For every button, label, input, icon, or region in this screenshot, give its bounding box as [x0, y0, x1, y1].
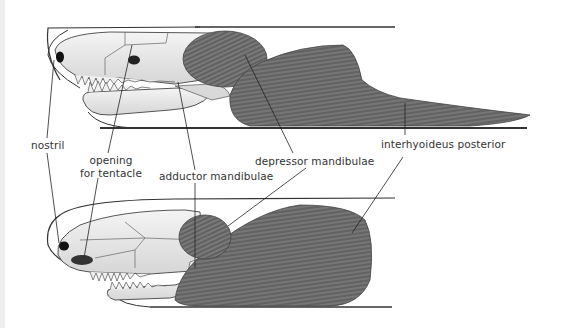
label-interhyoideus-posterior: interhyoideus posterior — [381, 138, 506, 151]
interhyoideus-posterior-muscle — [230, 45, 530, 126]
label-depressor-mandibulae: depressor mandibulae — [255, 155, 374, 168]
label-opening-for-tentacle: opening for tentacle — [80, 154, 142, 180]
leader-nostril-upper — [47, 60, 54, 138]
nostril-shape — [56, 52, 64, 63]
upper-view — [48, 27, 531, 128]
label-opening-line2: for tentacle — [80, 167, 142, 180]
leader-interhyoideus-lower — [352, 157, 403, 233]
label-opening-line1: opening — [80, 154, 142, 167]
depressor-mandibulae-muscle — [179, 215, 231, 259]
label-nostril: nostril — [31, 139, 65, 152]
label-adductor-mandibulae: adductor mandibulae — [159, 170, 273, 183]
lower-view — [48, 198, 396, 307]
